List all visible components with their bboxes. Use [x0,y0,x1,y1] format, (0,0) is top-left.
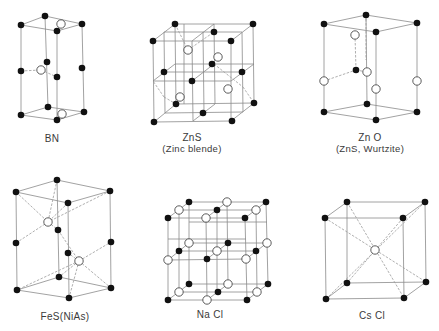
filled-atom [66,295,73,302]
filled-atom [423,279,430,286]
bond-line [153,81,164,97]
open-atom [75,257,83,265]
label-zns: ZnS(Zinc blende) [162,132,221,154]
structure-zno-wurtzite [320,12,421,124]
lattice-edge [326,298,404,299]
filled-atom [373,29,380,36]
filled-atom [253,248,260,255]
filled-atom [54,74,61,81]
open-atom [242,255,250,263]
label-bn: BN [45,133,60,144]
filled-atom [211,29,218,36]
open-atom [37,66,45,74]
structure-name: Na Cl [197,309,224,320]
filled-atom [401,295,408,302]
filled-atom [165,297,172,304]
open-atom [413,77,421,85]
lattice-edge [325,202,347,218]
open-atom [263,239,271,247]
lattice-edge [366,15,417,23]
open-atom [253,288,261,296]
open-atom [213,247,221,255]
open-atom [224,280,232,288]
open-atom [252,206,260,214]
filled-atom [54,177,61,184]
open-atom [371,246,379,254]
filled-atom [225,240,232,247]
filled-atom [344,199,351,206]
filled-atom [344,280,351,287]
lattice-edge [154,121,231,122]
filled-atom [18,112,25,119]
bond-line [355,35,356,70]
filled-atom [189,78,196,85]
open-atom [176,93,184,101]
filled-atom [363,12,370,19]
filled-atom [209,61,216,68]
filled-atom [42,13,49,20]
filled-atom [251,100,258,107]
label-fes: FeS(NiAs) [41,311,90,322]
open-atom [44,218,52,226]
filled-atom [265,281,272,288]
lattice-edge [376,23,417,32]
filled-atom [353,67,360,74]
filled-atom [18,68,25,75]
structure-name: FeS(NiAs) [41,311,90,322]
open-atom [203,296,211,304]
structure-bn [18,13,88,124]
filled-atom [151,119,158,126]
bond-line [17,261,79,290]
lattice-edge [153,41,154,122]
open-atom [58,110,66,118]
filled-atom [44,59,51,66]
lattice-edge [16,180,57,192]
filled-atom [45,104,52,111]
lattice-edge [253,24,254,103]
bond-line [79,261,111,288]
lattice-edge [347,282,426,283]
filled-atom [364,101,371,108]
filled-atom [186,199,193,206]
structure-nacl [164,198,272,304]
filled-atom [200,110,207,117]
filled-atom [239,69,246,76]
lattice-edge [324,112,376,120]
filled-atom [414,20,421,27]
filled-atom [150,38,157,45]
filled-atom [215,289,222,296]
filled-atom [321,109,328,116]
filled-atom [400,215,407,222]
filled-atom [54,28,61,35]
open-atom [184,46,192,54]
filled-atom [165,215,172,222]
lattice-edge [48,107,84,112]
bond-line [16,192,48,222]
structure-subname: (ZnS, Wurtzite) [336,143,404,154]
open-atom [175,288,183,296]
filled-atom [65,200,72,207]
filled-atom [323,296,330,303]
filled-atom [244,297,251,304]
filled-atom [65,250,72,257]
filled-atom [214,207,221,214]
lattice-edge [21,107,48,115]
structure-zns-zinc-blende [150,21,258,126]
filled-atom [107,188,114,195]
filled-atom [186,281,193,288]
lattice-edge [21,16,45,25]
filled-atom [422,199,429,206]
structure-name: ZnS [162,132,221,143]
open-atom [214,53,222,61]
filled-atom [242,215,249,222]
lattice-edge [324,15,366,24]
filled-atom [250,21,257,28]
filled-atom [13,240,20,247]
lattice-edge [425,202,426,282]
filled-atom [321,21,328,28]
structure-fes-nias [13,177,115,302]
filled-atom [108,239,115,246]
bond-line [324,70,356,81]
structure-name: Cs Cl [359,310,385,321]
open-atom [175,206,183,214]
